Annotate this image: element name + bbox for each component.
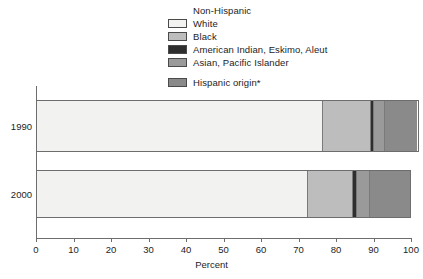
x-tick	[224, 238, 225, 242]
x-tick	[261, 238, 262, 242]
x-tick	[411, 238, 412, 242]
bar-segment	[37, 171, 307, 217]
x-tick-label: 90	[368, 244, 379, 255]
x-tick-label: 40	[181, 244, 192, 255]
chart-figure: Non-Hispanic White Black American Indian…	[0, 0, 423, 279]
x-tick-label: 10	[68, 244, 79, 255]
bar-2000	[36, 170, 411, 218]
x-tick-label: 100	[403, 244, 419, 255]
bar-1990	[36, 100, 419, 152]
x-tick-label: 0	[33, 244, 38, 255]
x-tick	[374, 238, 375, 242]
bar-segment	[384, 101, 418, 151]
x-tick-label: 60	[256, 244, 267, 255]
bar-segment	[307, 171, 353, 217]
x-tick	[299, 238, 300, 242]
x-tick	[336, 238, 337, 242]
x-tick-label: 70	[293, 244, 304, 255]
x-axis-title: Percent	[0, 259, 423, 270]
x-tick-label: 50	[218, 244, 229, 255]
bar-segment	[322, 101, 370, 151]
x-tick-label: 80	[331, 244, 342, 255]
bar-segment	[356, 171, 369, 217]
bar-segment	[37, 101, 322, 151]
bar-segment	[373, 101, 384, 151]
plot-area: 0102030405060708090100 1990 2000 Percent	[0, 0, 423, 279]
x-tick	[149, 238, 150, 242]
x-tick	[186, 238, 187, 242]
bar-segment	[369, 171, 410, 217]
y-axis-label-1990: 1990	[0, 121, 32, 132]
x-tick	[111, 238, 112, 242]
y-axis-label-2000: 2000	[0, 189, 32, 200]
x-tick	[36, 238, 37, 242]
x-tick-label: 20	[106, 244, 117, 255]
x-tick-label: 30	[143, 244, 154, 255]
x-tick	[74, 238, 75, 242]
